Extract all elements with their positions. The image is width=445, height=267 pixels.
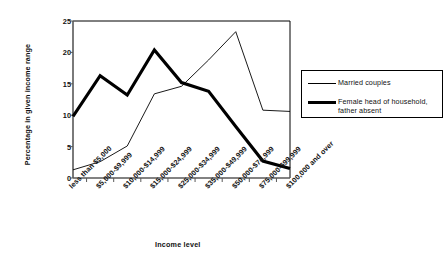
- legend-label: Female head of household, father absent: [338, 97, 428, 115]
- legend-label: Married couples: [338, 78, 391, 87]
- line-chart: Percentage in given income range 0510152…: [0, 0, 445, 267]
- legend: Married couples Female head of household…: [301, 70, 443, 118]
- legend-swatch-thin-line-icon: [308, 83, 336, 84]
- legend-item-female-head-of-household: Female head of household, father absent: [308, 97, 428, 115]
- plot-area: [0, 0, 445, 267]
- x-axis-title: Income level: [155, 240, 201, 249]
- legend-swatch-thick-line-icon: [308, 101, 336, 104]
- legend-item-married-couples: Married couples: [308, 78, 391, 87]
